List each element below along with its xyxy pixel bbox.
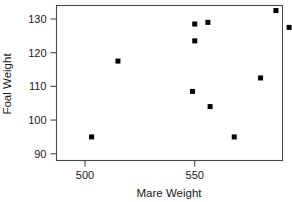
data-point-marker [258, 75, 263, 80]
x-axis-title: Mare Weight [137, 187, 203, 199]
data-point-marker [273, 8, 278, 13]
data-point-marker [192, 38, 197, 43]
y-axis-tick-label: 110 [29, 80, 47, 92]
data-points-layer [89, 8, 292, 144]
data-point-marker [205, 20, 210, 25]
y-axis: 90100110120130 [28, 13, 56, 160]
x-axis-tick-label: 500 [76, 169, 94, 181]
data-point-marker [192, 22, 197, 27]
y-axis-tick-label: 100 [28, 114, 46, 126]
y-axis-tick-label: 90 [34, 148, 46, 160]
y-axis-tick-label: 130 [28, 13, 46, 25]
scatter-plot-canvas: 90100110120130 500550600650 Mare Weight … [0, 0, 292, 202]
scatter-plot-figure: 90100110120130 500550600650 Mare Weight … [0, 0, 292, 202]
data-point-marker [287, 25, 292, 30]
data-point-marker [190, 89, 195, 94]
data-point-marker [232, 134, 237, 139]
x-axis-tick-label: 550 [186, 169, 204, 181]
data-point-marker [89, 134, 94, 139]
data-point-marker [208, 104, 213, 109]
data-point-marker [115, 59, 120, 64]
y-axis-tick-label: 120 [28, 47, 46, 59]
x-axis: 500550600650 [76, 161, 292, 181]
y-axis-title: Foal Weight [1, 53, 13, 115]
